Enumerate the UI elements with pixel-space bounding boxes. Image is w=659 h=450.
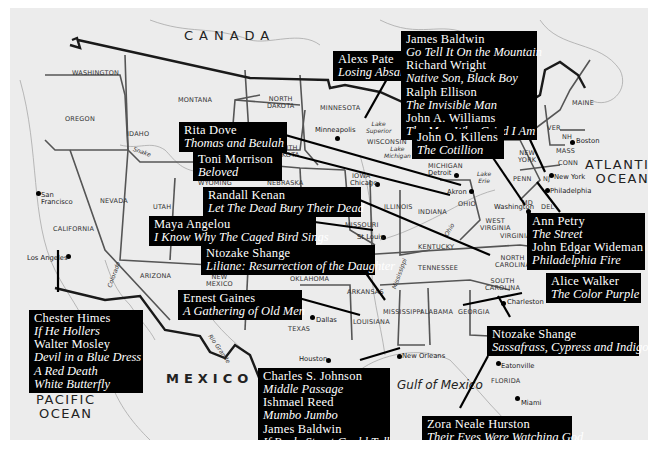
book-title: Devil in a Blue Dress <box>34 351 138 364</box>
book-title: Philadelphia Fire <box>532 254 640 267</box>
book-title: White Butterfly <box>34 378 138 391</box>
callout-alice-walker: Alice Walker The Color Purple <box>546 273 641 303</box>
callout-ntozake-liliane: Ntozake Shange Liliane: Resurrection of … <box>201 245 375 275</box>
callout-maya-angelou: Maya Angelou I Know Why The Caged Bird S… <box>149 216 316 246</box>
book-title: A Gathering of Old Men <box>183 305 297 318</box>
book-title: Beloved <box>198 166 277 179</box>
book-title: The Color Purple <box>551 288 636 301</box>
callout-ann-petry-wideman: Ann Petry The Street John Edgar Wideman … <box>527 213 645 270</box>
callout-la-group: Chester Himes If He Hollers Walter Mosle… <box>29 310 143 393</box>
callout-ernest-gaines: Ernest Gaines A Gathering of Old Men <box>178 290 302 320</box>
literary-map: CANADA MEXICO ATLANTIC OCEAN PACIFIC OCE… <box>10 8 648 440</box>
callout-ntozake-sassafrass: Ntozake Shange Sassafrass, Cypress and I… <box>487 326 639 356</box>
callout-john-killens: John O. Killens The Cotillion <box>412 129 504 159</box>
book-title: A Red Death <box>34 365 138 378</box>
callout-randall-kenan: Randall Kenan Let The Dead Bury Their De… <box>203 187 361 217</box>
book-title: Losing Absalom <box>338 66 399 79</box>
book-title: Native Son, Black Boy <box>406 72 532 85</box>
book-title: Mumbo Jumbo <box>263 409 385 422</box>
book-title: The Invisible Man <box>406 99 532 112</box>
callout-new-orleans-group: Charles S. Johnson Middle Passage Ishmae… <box>258 368 390 440</box>
author-name: Ralph Ellison <box>406 86 532 99</box>
book-title: Thomas and Beulah <box>184 137 282 150</box>
book-title: If Beale Street Could Talk <box>263 436 385 440</box>
book-title: Their Eyes Were Watching God <box>427 431 567 440</box>
author-name: John A. Williams <box>406 112 532 125</box>
callout-toni-morrison: Toni Morrison Beloved <box>193 151 282 181</box>
callout-alexs-pate: Alexs Pate Losing Absalom <box>333 51 404 81</box>
callout-zora-hurston: Zora Neale Hurston Their Eyes Were Watch… <box>422 416 572 440</box>
callout-rita-dove: Rita Dove Thomas and Beulah <box>179 122 287 152</box>
book-title: Liliane: Resurrection of the Daughter <box>206 260 370 273</box>
callout-northeast-group: James Baldwin Go Tell It On the Mountain… <box>401 31 537 140</box>
book-title: Sassafrass, Cypress and Indigo <box>492 341 634 354</box>
book-title: Let The Dead Bury Their Dead <box>208 202 356 215</box>
book-title: The Cotillion <box>417 144 499 157</box>
author-name: James Baldwin <box>263 423 385 436</box>
book-title: I Know Why The Caged Bird Sings <box>154 231 311 244</box>
